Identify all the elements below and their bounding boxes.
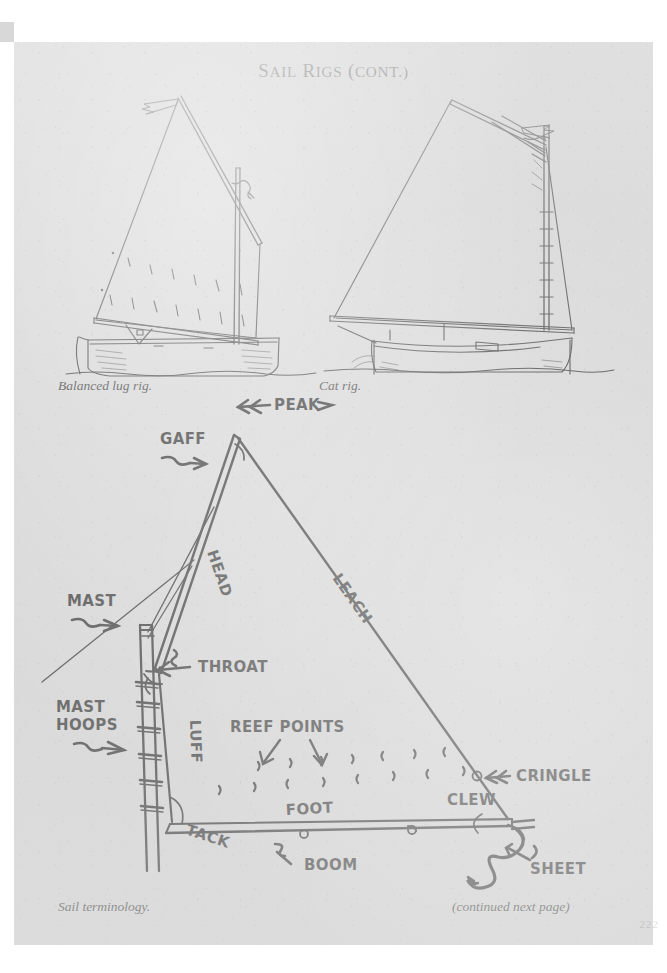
- caption-continued-next-page: (continued next page): [452, 899, 570, 915]
- page-title-igs: IGS: [316, 63, 343, 80]
- label-gaff: GAFF: [160, 430, 206, 448]
- label-mast-hoops-line2: HOOPS: [56, 716, 118, 734]
- label-cringle: CRINGLE: [516, 767, 592, 785]
- label-luff: LUFF: [186, 720, 206, 764]
- page-title-paren-open: (: [348, 60, 355, 81]
- page-title-ail: AIL: [269, 63, 297, 80]
- label-mast-hoops-line1: MAST: [56, 698, 106, 716]
- page-title-cont: CONT: [355, 63, 398, 80]
- label-leach: LEACH: [329, 570, 376, 627]
- figure-sail-terminology: PEAK GAFF HEAD: [42, 382, 642, 887]
- label-head: HEAD: [203, 547, 236, 599]
- page-title-paren-close: .): [398, 63, 408, 80]
- page-title-s: S: [258, 60, 269, 81]
- label-sheet: SHEET: [530, 860, 586, 878]
- label-peak: PEAK: [274, 396, 321, 414]
- label-reef-points: REEF POINTS: [230, 718, 345, 736]
- label-boom: BOOM: [304, 856, 357, 874]
- figure-balanced-lug-rig: [66, 82, 316, 372]
- label-throat: THROAT: [198, 658, 268, 676]
- figure-cat-rig: [324, 90, 614, 375]
- page-title-r: R: [302, 60, 315, 81]
- screenshot-root: SAIL RIGS (CONT.): [0, 0, 667, 973]
- book-page: SAIL RIGS (CONT.): [14, 42, 653, 945]
- label-tack: TACK: [184, 821, 233, 852]
- page-number: 222: [640, 918, 660, 930]
- label-mast: MAST: [67, 592, 117, 610]
- caption-sail-terminology: Sail terminology.: [58, 899, 150, 915]
- scan-registration-notch: [0, 22, 14, 42]
- label-clew: CLEW: [447, 791, 496, 809]
- page-title: SAIL RIGS (CONT.): [14, 60, 653, 82]
- label-foot: FOOT: [285, 799, 334, 819]
